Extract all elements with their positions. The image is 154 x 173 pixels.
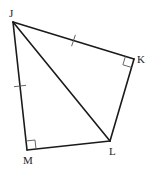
vertex-label-j: J [9,7,14,19]
segment-kl [110,59,134,141]
segment-lm [27,141,110,150]
vertex-label-l: L [109,145,116,157]
vertex-label-m: M [23,154,33,166]
geometry-diagram: J K L M [0,0,154,173]
vertex-label-k: K [137,53,145,65]
diagonal-jl [13,22,110,141]
